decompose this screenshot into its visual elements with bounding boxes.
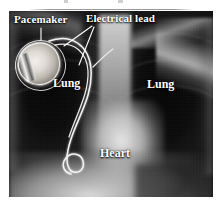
label-lung-left: Lung (53, 76, 80, 91)
figure-chest-xray: Pacemaker Electrical lead Lung Lung Hear… (0, 0, 221, 207)
label-heart: Heart (100, 146, 130, 161)
leader-electrical-lead-b (79, 27, 94, 65)
annotation-layer: Pacemaker Electrical lead Lung Lung Hear… (0, 0, 221, 207)
label-lung-right: Lung (147, 77, 174, 92)
label-pacemaker: Pacemaker (14, 13, 67, 25)
label-electrical-lead: Electrical lead (86, 12, 155, 24)
leader-lines (0, 0, 221, 207)
